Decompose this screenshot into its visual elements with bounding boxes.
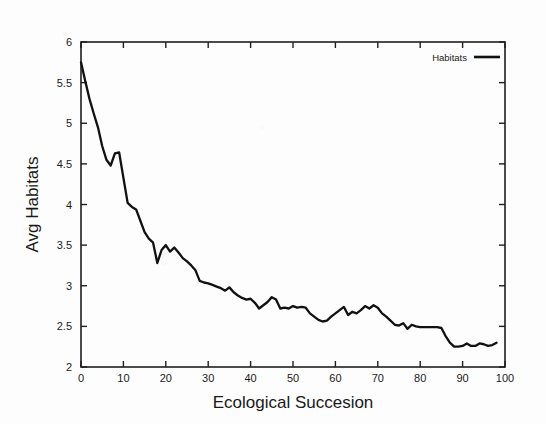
x-axis-title: Ecological Succesion xyxy=(213,393,374,412)
plot-frame xyxy=(81,42,505,367)
x-axis-tick-label: 10 xyxy=(117,372,129,384)
x-axis-tick-label: 60 xyxy=(329,372,341,384)
y-axis-tick-label: 4 xyxy=(66,199,72,211)
y-axis-tick-label: 2 xyxy=(66,361,72,373)
chart-figure: 010203040506070809010022.533.544.555.56H… xyxy=(0,0,546,424)
x-axis-tick-label: 90 xyxy=(456,372,468,384)
y-axis-tick-label: 2.5 xyxy=(57,320,72,332)
y-axis-tick-label: 5 xyxy=(66,117,72,129)
y-axis-tick-label: 6 xyxy=(66,36,72,48)
y-axis-tick-label: 3 xyxy=(66,280,72,292)
y-axis-tick-label: 4.5 xyxy=(57,158,72,170)
y-axis-tick-label: 3.5 xyxy=(57,239,72,251)
legend-label-habitats: Habitats xyxy=(432,52,467,63)
x-axis-tick-label: 0 xyxy=(78,372,84,384)
data-series-habitats xyxy=(81,62,497,346)
y-axis-title: Avg Habitats xyxy=(23,156,42,252)
x-axis-tick-label: 20 xyxy=(160,372,172,384)
x-axis-tick-label: 50 xyxy=(287,372,299,384)
y-axis-tick-label: 5.5 xyxy=(57,77,72,89)
x-axis-tick-label: 80 xyxy=(414,372,426,384)
x-axis-tick-label: 40 xyxy=(244,372,256,384)
line-chart: 010203040506070809010022.533.544.555.56H… xyxy=(0,0,546,424)
x-axis-tick-label: 30 xyxy=(202,372,214,384)
x-axis-tick-label: 70 xyxy=(372,372,384,384)
x-axis-tick-label: 100 xyxy=(496,372,514,384)
